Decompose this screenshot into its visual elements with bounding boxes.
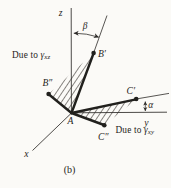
due-to-gamma-xz-prefix: Due to	[12, 50, 40, 60]
point-c-prime-dot	[134, 97, 139, 102]
due-to-gamma-xz-label: Due to γxz	[12, 50, 50, 61]
beta-angle-arc	[74, 33, 99, 37]
point-b-prime-dot	[91, 51, 96, 56]
shear-strain-diagram: z y x β α A B′ B″ C′ C″ Due to γxz Due t…	[0, 0, 171, 188]
due-to-gamma-xy-label: Due to γxy	[116, 125, 155, 136]
point-c-double-prime-dot	[102, 123, 107, 128]
z-axis-label: z	[58, 7, 63, 18]
point-b-double-prime-dot	[46, 92, 51, 97]
y-axis	[72, 112, 168, 113]
point-b-double-prime-label: B″	[43, 77, 54, 88]
point-a-label: A	[67, 115, 74, 126]
point-c-prime-label: C′	[127, 85, 136, 96]
gamma-xz-subscript: xz	[43, 53, 50, 60]
due-to-gamma-xy-prefix: Due to	[116, 125, 144, 135]
alpha-angle-label: α	[148, 100, 154, 110]
gamma-xy-subscript: xy	[147, 128, 155, 135]
figure-caption: (b)	[64, 164, 76, 176]
point-c-double-prime-label: C″	[98, 131, 109, 142]
x-axis-label: x	[23, 148, 29, 159]
shear-strain-figure: z y x β α A B′ B″ C′ C″ Due to γxz Due t…	[0, 0, 171, 188]
beta-angle-label: β	[82, 21, 88, 31]
c-prime-extension-line	[136, 93, 169, 99]
point-b-prime-label: B′	[98, 48, 107, 59]
x-axis	[33, 113, 72, 151]
